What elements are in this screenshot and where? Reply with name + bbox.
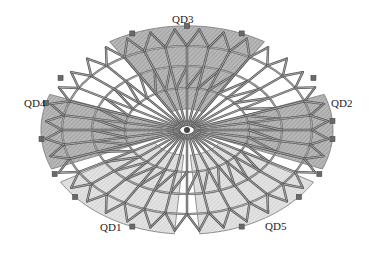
support-node: [239, 31, 244, 36]
support-node: [58, 75, 63, 80]
support-node: [130, 224, 135, 229]
support-node: [330, 118, 335, 123]
zigzag-member-core: [87, 59, 107, 66]
zigzag-member-core: [267, 47, 268, 65]
zigzag-member-core: [59, 87, 79, 88]
zigzag-member-core: [59, 172, 79, 173]
zone-label-qd4: QD4: [24, 98, 45, 109]
support-node: [130, 31, 135, 36]
support-node: [239, 224, 244, 229]
zigzag-member-core: [295, 172, 315, 173]
zigzag-member-core: [295, 87, 315, 88]
zigzag-member-core: [267, 59, 287, 66]
zigzag-member-core: [283, 72, 303, 76]
zigzag-member-core: [106, 47, 107, 65]
zigzag-member-core: [87, 59, 91, 76]
zone-label-qd1: QD1: [100, 222, 121, 233]
support-node: [52, 172, 57, 177]
zone-label-qd2: QD2: [331, 98, 352, 109]
zigzag-member-core: [106, 194, 107, 212]
support-node: [73, 194, 78, 199]
zigzag-member-core: [71, 72, 91, 76]
support-node: [39, 137, 44, 142]
support-node: [330, 137, 335, 142]
zone-label-qd5: QD5: [265, 221, 286, 232]
support-node: [311, 75, 316, 80]
hub-center: [184, 127, 190, 133]
support-node: [317, 172, 322, 177]
structure-diagram: QD3 QD4 QD2 QD1 QD5: [0, 0, 369, 255]
roof-plan-svg: [0, 0, 369, 255]
zigzag-member-core: [267, 194, 268, 212]
zigzag-member-core: [283, 59, 287, 76]
zone-label-qd3: QD3: [172, 14, 193, 25]
support-node: [296, 194, 301, 199]
